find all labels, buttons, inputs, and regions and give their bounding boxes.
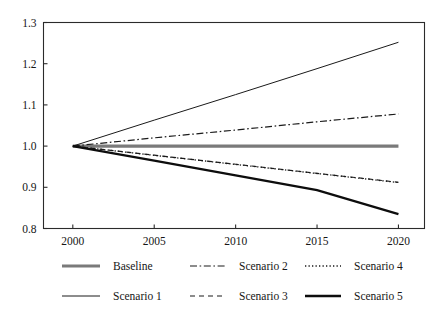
y-tick-label: 1.2: [22, 58, 37, 70]
legend-label: Scenario 5: [354, 290, 403, 302]
x-tick-label: 2020: [387, 235, 410, 247]
y-tick-label: 1.3: [22, 17, 37, 29]
x-tick-label: 2010: [224, 235, 247, 247]
legend-label: Baseline: [113, 260, 153, 272]
legend-label: Scenario 2: [239, 260, 288, 272]
y-tick-label: 1.0: [22, 140, 37, 152]
chart-figure: 0.80.91.01.11.21.3 20002005201020152020 …: [0, 0, 440, 324]
legend-label: Scenario 3: [239, 290, 288, 302]
x-tick-label: 2005: [143, 235, 166, 247]
y-tick-label: 0.8: [22, 223, 37, 235]
y-tick-label: 1.1: [22, 99, 37, 111]
x-tick-label: 2000: [61, 235, 84, 247]
legend-label: Scenario 4: [354, 260, 403, 272]
line-chart: 0.80.91.01.11.21.3 20002005201020152020 …: [0, 0, 440, 324]
x-tick-label: 2015: [306, 235, 329, 247]
y-tick-label: 0.9: [22, 181, 37, 193]
legend-label: Scenario 1: [113, 290, 162, 302]
